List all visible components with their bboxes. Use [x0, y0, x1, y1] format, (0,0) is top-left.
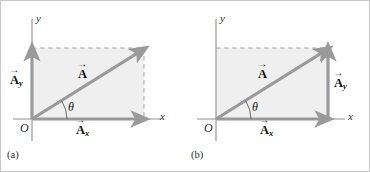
vector-components-figure: x y O θ A Ax Ay (a): [0, 0, 370, 172]
angle-label-b: θ: [252, 101, 258, 113]
y-axis-label-b: y: [220, 13, 225, 24]
vector-arrow-accent-icon: A: [76, 124, 85, 137]
x-axis-label-b: x: [348, 111, 353, 122]
vector-arrow-accent-icon: A: [260, 124, 269, 137]
vector-Ay-subscript-b: y: [343, 81, 347, 91]
vector-arrow-accent-icon: A: [10, 74, 19, 87]
vector-Ax-subscript-b: x: [269, 128, 273, 138]
vector-arrow-accent-icon: A: [258, 68, 267, 81]
caption-a: (a): [7, 149, 19, 160]
vector-A-label-a: A: [78, 68, 87, 81]
angle-label-a: θ: [68, 101, 74, 113]
caption-b: (b): [191, 149, 203, 160]
vector-A-label-b: A: [258, 68, 267, 81]
origin-label-b: O: [204, 122, 213, 134]
panel-b: x y O θ A Ax Ay (b): [185, 1, 370, 172]
x-axis-label-a: x: [160, 111, 165, 122]
origin-label-a: O: [20, 122, 29, 134]
vector-Ay-label-b: Ay: [334, 77, 347, 90]
vector-Ax-label-b: Ax: [260, 124, 273, 137]
vector-Ay-label-a: Ay: [10, 74, 23, 87]
vector-Ay-subscript-a: y: [19, 78, 23, 88]
y-axis-label-a: y: [36, 13, 41, 24]
vector-Ax-subscript-a: x: [85, 128, 89, 138]
vector-arrow-accent-icon: A: [334, 77, 343, 90]
vector-Ax-label-a: Ax: [76, 124, 89, 137]
vector-arrow-accent-icon: A: [78, 68, 87, 81]
panel-a-graphic: [1, 1, 186, 172]
panel-a: x y O θ A Ax Ay (a): [1, 1, 186, 172]
